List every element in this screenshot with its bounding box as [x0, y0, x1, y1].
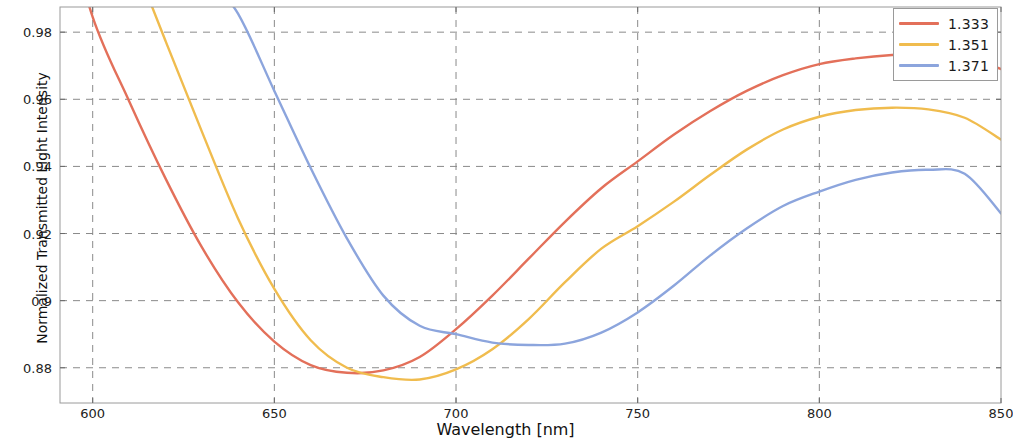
x-tick-label: 750 [625, 406, 650, 421]
legend-item[interactable]: 1.351 [899, 34, 992, 55]
plot-background [60, 7, 1001, 403]
x-tick-label: 700 [444, 406, 469, 421]
legend-swatch-line-icon [899, 22, 939, 25]
x-tick-label: 650 [262, 406, 287, 421]
legend-swatch-line-icon [899, 43, 939, 46]
legend-label: 1.371 [948, 58, 989, 74]
x-tick-label: 850 [989, 406, 1013, 421]
legend-swatch-line-icon [899, 64, 939, 67]
x-tick-label: 600 [80, 406, 105, 421]
legend-item[interactable]: 1.371 [899, 55, 992, 76]
y-tick-label: 0.98 [0, 25, 52, 40]
y-tick-label: 0.88 [0, 360, 52, 375]
x-axis-label: Wavelength [nm] [0, 420, 1011, 439]
x-tick-label: 800 [807, 406, 832, 421]
legend-item[interactable]: 1.333 [899, 13, 992, 34]
legend-box: 1.333 1.351 1.371 [893, 8, 998, 81]
legend-label: 1.351 [948, 37, 989, 53]
legend-label: 1.333 [948, 16, 989, 32]
y-axis-label: Normalized Transmitted Light Intensity [34, 68, 50, 348]
